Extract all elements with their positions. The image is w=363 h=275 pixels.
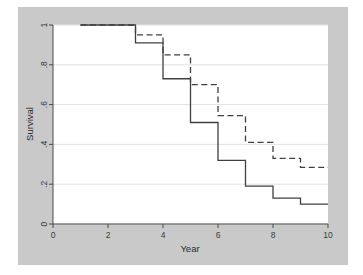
x-tick-label-1: 2	[106, 230, 111, 240]
data-series-group	[81, 25, 329, 204]
figure-container: 0.2.4.6.81 0246810 Year Survival	[0, 0, 363, 275]
chart-svg-wrapper: 0.2.4.6.81 0246810 Year Survival	[0, 0, 363, 275]
y-tick-label-2: .4	[39, 141, 49, 148]
y-tick-label-0: 0	[39, 221, 49, 226]
y-axis-title: Survival	[24, 107, 35, 141]
x-tick-label-3: 6	[216, 230, 221, 240]
y-tick-label-5: 1	[39, 22, 49, 27]
x-tick-label-4: 8	[271, 230, 276, 240]
y-tick-label-4: .8	[39, 61, 49, 68]
y-axis-ticks-group: 0.2.4.6.81	[39, 22, 53, 226]
solid-curve	[81, 25, 329, 204]
x-tick-label-0: 0	[51, 230, 56, 240]
x-axis-ticks-group: 0246810	[51, 224, 333, 240]
y-tick-label-1: .2	[39, 180, 49, 187]
x-tick-label-2: 4	[161, 230, 166, 240]
dashed-curve	[81, 25, 329, 167]
x-axis-title: Year	[180, 243, 199, 254]
y-tick-label-3: .6	[39, 101, 49, 108]
x-tick-label-5: 10	[323, 230, 333, 240]
gridlines-group	[53, 25, 328, 224]
survival-chart: 0.2.4.6.81 0246810 Year Survival	[0, 0, 363, 275]
